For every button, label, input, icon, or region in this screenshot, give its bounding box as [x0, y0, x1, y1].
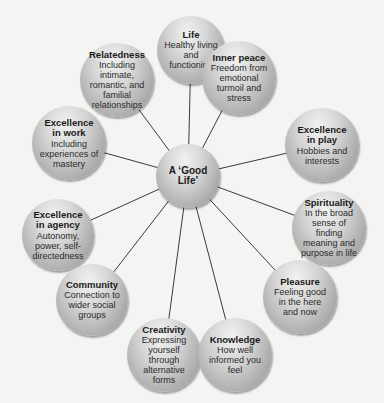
node-excellence-work: Excellence in work Including experiences…	[32, 106, 106, 180]
node-title: Excellence in play	[292, 125, 352, 146]
node-center-good-life: A ‘Good Life’	[156, 144, 220, 208]
node-inner-peace: Inner peace Freedom from emotional turmo…	[202, 41, 276, 115]
node-title: Life	[183, 30, 200, 41]
node-desc: Freedom from emotional turmoil and stres…	[209, 63, 269, 103]
node-title: Excellence in work	[39, 118, 99, 139]
node-title: Relatedness	[89, 50, 145, 61]
node-title: Excellence in agency	[28, 210, 88, 231]
node-desc: Feeling good in the here and now	[270, 287, 330, 317]
node-title: Community	[66, 280, 118, 291]
node-knowledge: Knowledge How well informed you feel	[198, 318, 272, 392]
node-excellence-agency: Excellence in agency Autonomy, power, se…	[22, 199, 94, 271]
center-title: A ‘Good Life’	[162, 166, 214, 187]
node-title: Inner peace	[213, 53, 266, 64]
node-creativity: Creativity Expressing yourself through a…	[127, 318, 201, 392]
node-pleasure: Pleasure Feeling good in the here and no…	[263, 260, 337, 334]
node-desc: Hobbies and interests	[292, 146, 352, 166]
node-title: Creativity	[142, 325, 185, 336]
node-desc: Autonomy, power, self-directedness	[28, 231, 88, 261]
good-life-diagram: Life Healthy living and functioning Rela…	[0, 0, 384, 403]
node-community: Community Connection to wider social gro…	[56, 264, 128, 336]
node-title: Knowledge	[210, 335, 261, 346]
node-spirituality: Spirituality In the broad sense of findi…	[292, 191, 366, 265]
node-title: Pleasure	[280, 277, 320, 288]
node-excellence-play: Excellence in play Hobbies and interests	[285, 108, 359, 182]
node-desc: Connection to wider social groups	[62, 290, 122, 320]
node-relatedness: Relatedness Including intimate, romantic…	[80, 43, 154, 117]
node-desc: How well informed you feel	[205, 345, 265, 375]
node-desc: Including experiences of mastery	[39, 139, 99, 169]
node-desc: Expressing yourself through alternative …	[134, 335, 194, 385]
node-desc: In the broad sense of finding meaning an…	[299, 208, 359, 258]
node-title: Spirituality	[304, 198, 353, 209]
node-desc: Including intimate, romantic, and famili…	[87, 60, 147, 110]
